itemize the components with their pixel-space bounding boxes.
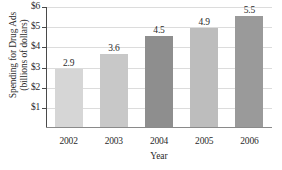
y-axis-tick-label: $2 [20, 83, 40, 93]
bar-2002 [55, 69, 83, 127]
bar-value-label-2004: 4.5 [139, 25, 179, 35]
bar-value-label-2006: 5.5 [229, 5, 269, 15]
x-axis-title: Year [46, 151, 272, 161]
y-axis-tick-label: $3 [20, 63, 40, 73]
y-axis-tick-label: $1 [20, 103, 40, 113]
bar-value-label-2005: 4.9 [184, 17, 224, 27]
bar-value-label-2002: 2.9 [49, 58, 89, 68]
x-axis-tick-label-2003: 2003 [92, 136, 136, 146]
bar-2006 [235, 16, 263, 127]
bar-value-label-2003: 3.6 [94, 43, 134, 53]
y-axis-tick-label: $5 [20, 22, 40, 32]
bar-2003 [100, 54, 128, 127]
x-axis-tick-label-2005: 2005 [182, 136, 226, 146]
x-axis-tick-label-2006: 2006 [227, 136, 271, 146]
y-axis-line [46, 7, 47, 128]
x-axis-tick-label-2002: 2002 [47, 136, 91, 146]
bar-chart: Spending for Drug Ads (billions of dolla… [0, 0, 282, 170]
bar-2005 [190, 28, 218, 127]
x-axis-tick-label-2004: 2004 [137, 136, 181, 146]
x-axis-line [46, 127, 272, 128]
y-axis-tick-label: $6 [20, 2, 40, 12]
y-axis-tick-labels: $1$2$3$4$5$6 [18, 0, 40, 170]
bar-2004 [145, 36, 173, 127]
y-axis-tick-label: $4 [20, 42, 40, 52]
